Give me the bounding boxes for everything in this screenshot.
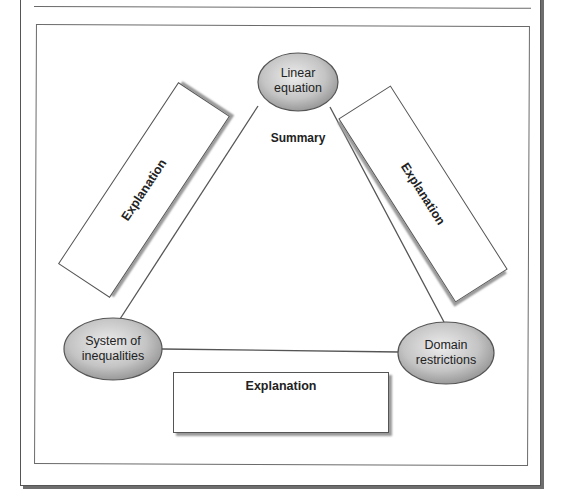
summary-label: Summary — [262, 131, 334, 145]
label-line-2: inequalities — [64, 349, 162, 364]
label-line-2: equation — [258, 81, 338, 96]
node-linear-equation-label: Linear equation — [258, 66, 338, 96]
edge-left-right — [162, 349, 399, 352]
label-line-2: restrictions — [398, 353, 494, 368]
explanation-text: Explanation — [398, 160, 448, 227]
explanation-text: Explanation — [174, 379, 388, 393]
label-line-1: Linear — [258, 66, 338, 81]
label-line-1: Domain — [398, 338, 494, 353]
explanation-text: Explanation — [119, 157, 170, 224]
node-domain-restrictions-label: Domain restrictions — [398, 338, 494, 368]
explanation-box-bottom: Explanation — [173, 372, 389, 433]
label-line-1: System of — [64, 334, 162, 349]
node-system-of-inequalities-label: System of inequalities — [64, 334, 162, 364]
